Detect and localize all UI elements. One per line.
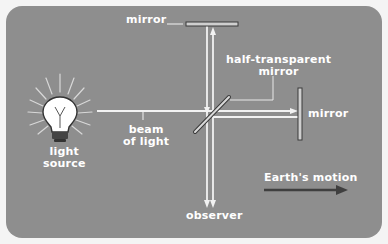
right-mirror-label: mirror	[308, 108, 348, 120]
earth-motion-label: Earth's motion	[264, 172, 357, 184]
light-source-label-line2: source	[43, 158, 86, 170]
top-mirror	[167, 22, 238, 26]
beam-of-light-label: beam of light	[123, 124, 169, 148]
light-source-label: light source	[43, 146, 86, 170]
beam-label-line2: of light	[123, 136, 169, 148]
interferometer-diagram	[0, 0, 388, 244]
half-transparent-mirror	[195, 97, 229, 132]
half-mirror-leader	[230, 76, 273, 100]
half-transparent-mirror-label-line2: mirror	[226, 66, 331, 78]
right-mirror	[298, 88, 302, 140]
top-mirror-label: mirror	[126, 14, 166, 26]
light-bulb-icon	[43, 97, 77, 142]
earth-motion-arrow-icon	[264, 185, 348, 195]
half-transparent-mirror-label: half-transparent mirror	[226, 54, 331, 78]
observer-label: observer	[186, 210, 243, 222]
